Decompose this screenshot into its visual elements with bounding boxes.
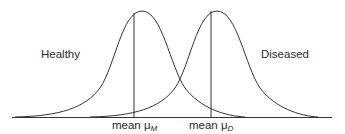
distributions-plot xyxy=(0,0,345,134)
mean-diseased-subscript: D xyxy=(228,124,234,133)
healthy-label: Healthy xyxy=(41,48,80,60)
mean-diseased-label: mean μD xyxy=(189,119,233,133)
diseased-label: Diseased xyxy=(261,48,309,60)
diseased-curve xyxy=(90,11,318,117)
mean-diseased-text: mean μ xyxy=(189,119,228,131)
mean-healthy-subscript: M xyxy=(151,124,158,133)
mean-healthy-text: mean μ xyxy=(112,119,151,131)
mean-healthy-label: mean μM xyxy=(112,119,157,133)
